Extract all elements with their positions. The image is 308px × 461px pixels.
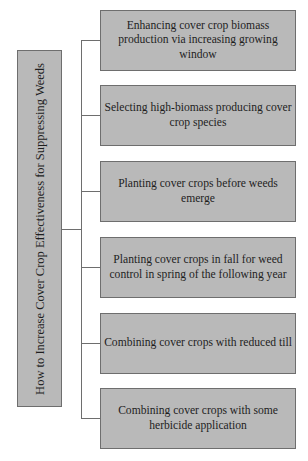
branch-connector-3 xyxy=(81,191,100,192)
branch-node-label: Combining cover crops with reduced till xyxy=(104,336,292,351)
branch-node-label: Planting cover crops in fall for weed co… xyxy=(103,253,293,282)
trunk-connector xyxy=(81,40,82,419)
branch-connector-6 xyxy=(81,418,100,419)
branch-node-label: Enhancing cover crop biomass production … xyxy=(103,19,293,63)
branch-node-4: Planting cover crops in fall for weed co… xyxy=(100,237,296,298)
branch-node-1: Enhancing cover crop biomass production … xyxy=(100,10,296,71)
branch-node-2: Selecting high-biomass producing cover c… xyxy=(100,85,296,146)
branch-node-label: Planting cover crops before weeds emerge xyxy=(103,177,293,206)
branch-connector-4 xyxy=(81,267,100,268)
root-node: How to Increase Cover Crop Effectiveness… xyxy=(17,50,62,407)
branch-connector-2 xyxy=(81,115,100,116)
branch-node-6: Combining cover crops with some herbicid… xyxy=(100,388,296,449)
branch-connector-5 xyxy=(81,343,100,344)
root-connector xyxy=(62,229,82,230)
branch-node-5: Combining cover crops with reduced till xyxy=(100,313,296,374)
root-node-label: How to Increase Cover Crop Effectiveness… xyxy=(33,50,47,407)
branch-connector-1 xyxy=(81,40,100,41)
branch-node-label: Combining cover crops with some herbicid… xyxy=(103,404,293,433)
branch-node-3: Planting cover crops before weeds emerge xyxy=(100,161,296,222)
branch-node-label: Selecting high-biomass producing cover c… xyxy=(103,101,293,130)
